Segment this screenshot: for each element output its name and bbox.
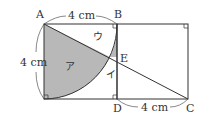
label-point-b: B: [114, 8, 122, 21]
label-point-c: C: [186, 102, 194, 115]
label-point-a: A: [35, 8, 45, 21]
right-angle-mark-d: [113, 95, 117, 99]
geometry-diagram: A B E D C ア イ ウ 4 cm 4 cm 4 cm: [0, 0, 205, 116]
dimension-label-ab: 4 cm: [68, 9, 96, 22]
label-point-e: E: [120, 52, 128, 65]
right-angle-mark-b: [113, 24, 117, 28]
dimension-label-left: 4 cm: [20, 56, 48, 69]
label-point-d: D: [113, 102, 122, 115]
right-angle-mark-top-right: [184, 24, 188, 28]
label-region-i: イ: [106, 69, 116, 80]
label-region-u: ウ: [93, 31, 103, 42]
dimension-label-dc: 4 cm: [141, 101, 169, 114]
label-region-a: ア: [65, 61, 75, 72]
